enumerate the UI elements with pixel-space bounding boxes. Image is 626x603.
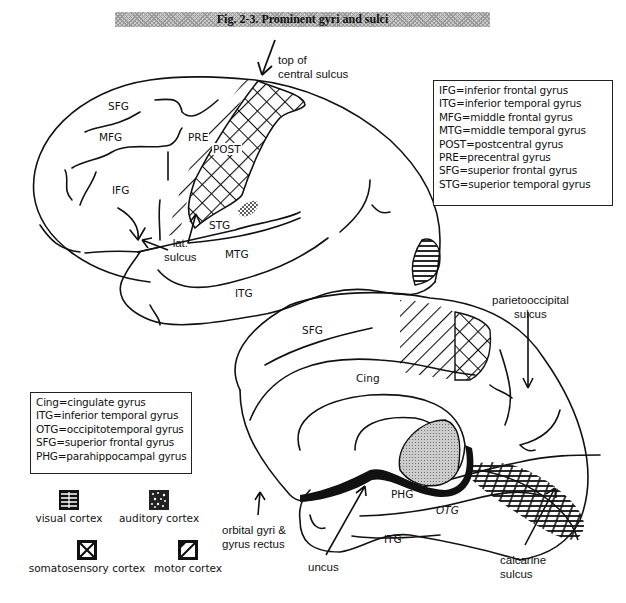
key-label: auditory cortex [119, 512, 199, 524]
callout-parietooccipital: parietooccipital sulcus [492, 293, 569, 321]
legend-lateral-row: POST=postcentral gyrus [439, 138, 607, 151]
orbital-arrow [255, 492, 265, 515]
callout-lateral-sulcus: lat. sulcus [164, 236, 197, 264]
key-label: motor cortex [154, 562, 222, 574]
key-auditory-cortex: auditory cortex [117, 490, 201, 524]
legend-lateral-row: ITG=inferior temporal gyrus [439, 97, 607, 110]
legend-lateral-row: SFG=superior frontal gyrus [439, 164, 607, 177]
auditory-region-lateral [238, 201, 258, 217]
horizontal-lines-swatch-icon [59, 490, 79, 510]
somatosensory-region-medial [455, 312, 490, 380]
label-post: POST [212, 143, 242, 155]
legend-lateral-row: STG=superior temporal gyrus [439, 178, 607, 191]
central-sulcus-arrow [258, 40, 275, 75]
legend-medial: Cing=cingulate gyrus ITG=inferior tempor… [30, 392, 192, 474]
label-sfg-medial: SFG [302, 324, 323, 336]
legend-lateral: IFG=inferior frontal gyrus ITG=inferior … [433, 80, 613, 206]
label-ifg: IFG [112, 184, 129, 196]
label-otg: OTG [436, 504, 459, 516]
callout-calcarine: calcarine sulcus [500, 553, 546, 581]
label-mfg: MFG [99, 131, 122, 143]
key-label: visual cortex [35, 512, 102, 524]
legend-medial-row: Cing=cingulate gyrus [36, 396, 186, 409]
thalamus-region [399, 420, 459, 486]
key-motor-cortex: motor cortex [152, 540, 224, 574]
legend-medial-row: OTG=occipitotemporal gyrus [36, 423, 186, 436]
label-stg: STG [209, 219, 230, 231]
key-somatosensory-cortex: somatosensory cortex [26, 540, 148, 574]
key-visual-cortex: visual cortex [34, 490, 104, 524]
legend-medial-row: PHG=parahippocampal gyrus [36, 450, 186, 463]
label-sfg-lateral: SFG [108, 100, 129, 112]
stipple-swatch-icon [149, 490, 169, 510]
label-pre: PRE [187, 131, 209, 143]
legend-lateral-row: MTG=middle temporal gyrus [439, 124, 607, 137]
label-cing: Cing [356, 372, 380, 384]
callout-uncus: uncus [308, 560, 339, 574]
legend-lateral-row: PRE=precentral gyrus [439, 151, 607, 164]
legend-lateral-row: IFG=inferior frontal gyrus [439, 84, 607, 97]
callout-orbital: orbital gyri & gyrus rectus [222, 523, 286, 551]
callout-central-sulcus: top of central sulcus [278, 53, 348, 81]
legend-medial-row: SFG=superior frontal gyrus [36, 436, 186, 449]
label-itg-medial: ITG [384, 533, 402, 545]
label-phg: PHG [391, 488, 413, 500]
parietooccipital-arrow [523, 312, 533, 388]
crosshatch-swatch-icon [77, 540, 97, 560]
motor-region-medial [400, 300, 455, 380]
legend-medial-row: ITG=inferior temporal gyrus [36, 409, 186, 422]
label-itg-lateral: ITG [235, 287, 253, 299]
legend-lateral-row: MFG=middle frontal gyrus [439, 111, 607, 124]
key-label: somatosensory cortex [29, 562, 146, 574]
label-mtg: MTG [225, 248, 249, 260]
diagonal-lines-swatch-icon [178, 540, 198, 560]
